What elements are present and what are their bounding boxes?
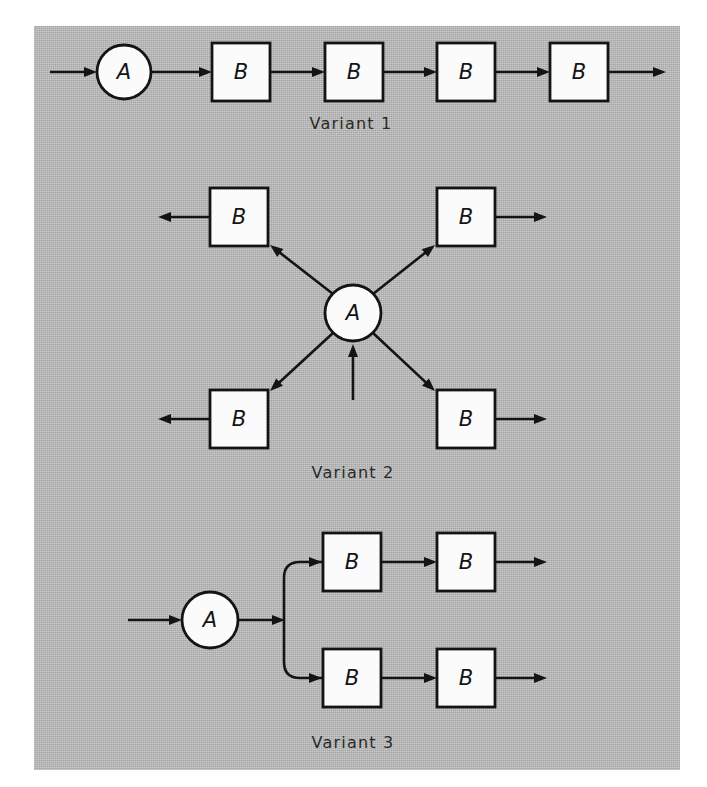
variant-2-box-b-upper-left-label: B (232, 205, 246, 229)
arrow-top-b1-to-b2-head (424, 557, 437, 567)
arrow-input-head (84, 67, 97, 77)
arrow-input-head (169, 615, 182, 625)
arrow-bottom-branch-to-b-line (284, 620, 322, 678)
variant-1-box-b-1-label: B (234, 60, 248, 84)
arrow-a-to-upper-right-line (373, 251, 427, 294)
arrow-b2-to-b3-head (424, 67, 437, 77)
variant-2-box-b-lower-left[interactable]: B (210, 390, 268, 448)
variant-3-box-b-top-1[interactable]: B (323, 533, 381, 591)
variant-1-box-b-1[interactable]: B (212, 43, 270, 101)
variant-1-box-b-4-label: B (572, 60, 586, 84)
variant-1-box-b-4[interactable]: B (550, 43, 608, 101)
arrow-b3-to-b4-head (537, 67, 550, 77)
variant-3-caption: Variant 3 (312, 733, 395, 752)
arrow-input-bottom-head (348, 344, 358, 357)
variant-3-box-b-top-2-label: B (459, 550, 473, 574)
arrow-top-branch-to-b-head (309, 557, 322, 567)
variant-1-box-b-3[interactable]: B (437, 43, 495, 101)
variant-2-circle-a-label: A (344, 301, 360, 325)
variant-2-box-b-upper-right-label: B (459, 205, 473, 229)
variant-2-box-b-lower-right-label: B (459, 407, 473, 431)
arrow-output-head (653, 67, 666, 77)
arrow-bottom-branch-to-b-head (309, 673, 322, 683)
variant-2-box-b-lower-right[interactable]: B (437, 390, 495, 448)
arrow-out-upper-right-head (534, 212, 547, 222)
variant-2-box-b-lower-left-label: B (232, 407, 246, 431)
variant-3-box-b-bottom-2[interactable]: B (437, 649, 495, 707)
arrow-bottom-b1-to-b2-head (424, 673, 437, 683)
arrow-a-to-upper-left-line (278, 251, 333, 294)
arrow-out-upper-left-head (158, 212, 171, 222)
figure-page: BBBBAVariant 1BBBBAVariant 2BBBBAVariant… (0, 0, 707, 787)
arrow-b1-to-b2-head (312, 67, 325, 77)
arrow-a-to-lower-left-line (277, 333, 333, 384)
variant-2-group: BBBBAVariant 2 (158, 188, 547, 482)
variant-3-box-b-top-2[interactable]: B (437, 533, 495, 591)
arrow-out-lower-right-head (534, 414, 547, 424)
arrow-out-lower-left-head (158, 414, 171, 424)
arrow-top-branch-to-b-line (284, 562, 322, 620)
variant-3-circle-a-label: A (201, 608, 217, 632)
variant-3-box-b-bottom-1-label: B (345, 666, 359, 690)
variant-1-caption: Variant 1 (310, 114, 393, 133)
arrow-a-to-b1-head (199, 67, 212, 77)
variant-1-circle-a[interactable]: A (97, 45, 151, 99)
variant-2-box-b-upper-left[interactable]: B (210, 188, 268, 246)
variant-3-circle-a[interactable]: A (182, 592, 238, 648)
diagram-panel: BBBBAVariant 1BBBBAVariant 2BBBBAVariant… (34, 26, 680, 770)
variant-3-box-b-top-1-label: B (345, 550, 359, 574)
variant-1-box-b-2-label: B (347, 60, 361, 84)
variant-2-caption: Variant 2 (312, 463, 395, 482)
variant-1-group: BBBBAVariant 1 (50, 43, 666, 133)
variant-2-box-b-upper-right[interactable]: B (437, 188, 495, 246)
variant-3-box-b-bottom-2-label: B (459, 666, 473, 690)
variant-3-box-b-bottom-1[interactable]: B (323, 649, 381, 707)
variant-3-group: BBBBAVariant 3 (128, 533, 547, 752)
variant-2-circle-a[interactable]: A (325, 285, 381, 341)
arrow-a-to-lower-right-line (373, 333, 428, 384)
diagram-canvas: BBBBAVariant 1BBBBAVariant 2BBBBAVariant… (34, 26, 680, 770)
arrow-top-output-head (534, 557, 547, 567)
arrow-bottom-output-head (534, 673, 547, 683)
variant-1-box-b-3-label: B (459, 60, 473, 84)
variant-1-box-b-2[interactable]: B (325, 43, 383, 101)
variant-1-circle-a-label: A (115, 60, 131, 84)
